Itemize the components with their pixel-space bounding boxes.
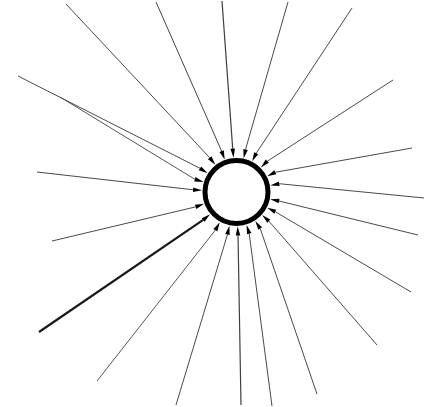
diagram-canvas — [0, 0, 428, 407]
central-circle — [205, 161, 268, 224]
radial-convergence-diagram — [0, 0, 428, 407]
